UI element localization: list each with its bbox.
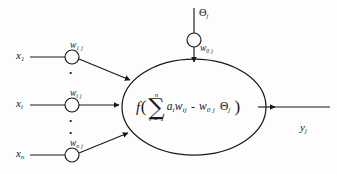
threshold-label: Θj xyxy=(199,8,209,19)
weight-node-i xyxy=(65,98,79,112)
diagram-vector-layer xyxy=(0,0,337,174)
ellipsis-dot-upper-1: • xyxy=(69,69,72,78)
activation-formula: f ( n ∑ i = 1 aiwij - w0 j Θj ) xyxy=(136,92,240,123)
neuron-diagram: x1 xi xn w1 j wi j wn j • • • Θj w0 j f … xyxy=(0,0,337,174)
weight-label-1: w1 j xyxy=(70,41,83,52)
summation-lower-limit: i = 1 xyxy=(149,116,164,123)
weight-label-n: wn j xyxy=(70,139,83,150)
formula-minus-operator: - xyxy=(188,100,198,115)
formula-threshold-term: Θj xyxy=(220,100,231,114)
input-label-i: xi xyxy=(16,98,23,111)
input-label-n: xn xyxy=(16,148,25,161)
input-label-1: x1 xyxy=(16,50,25,63)
formula-activation-term: aiwij xyxy=(167,100,187,114)
bias-weight-label: w0 j xyxy=(200,44,213,55)
ellipsis-dot-lower-2: • xyxy=(69,129,72,138)
weight-label-i: wi j xyxy=(70,89,82,100)
bias-weight-node xyxy=(187,33,201,47)
ellipsis-dot-lower-1: • xyxy=(69,117,72,126)
output-label: yj xyxy=(300,122,307,135)
weight-node-1 xyxy=(65,50,79,64)
weight-node-n xyxy=(65,148,79,162)
formula-function: f xyxy=(136,99,140,116)
input-connector-n xyxy=(79,133,128,153)
formula-open-paren: ( xyxy=(141,97,147,117)
formula-close-paren: ) xyxy=(235,97,241,117)
formula-bias-weight-term: w0 j xyxy=(199,100,215,114)
input-connector-1 xyxy=(79,59,130,80)
summation-operator: n ∑ i = 1 xyxy=(148,92,164,123)
